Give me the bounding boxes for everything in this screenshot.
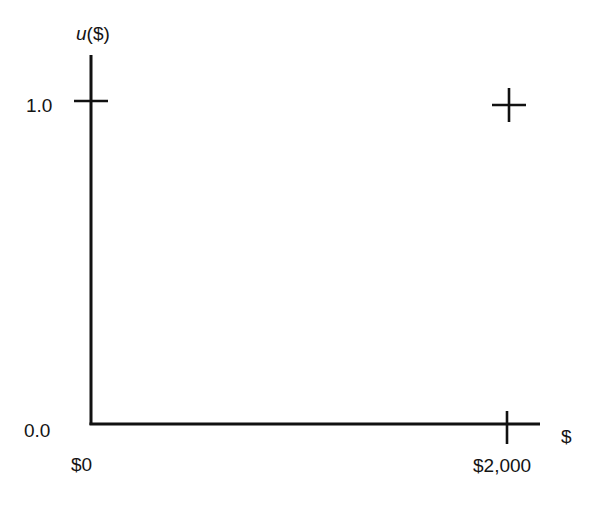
x-tick-label-0: $0 — [71, 454, 92, 476]
utility-chart: u($) 1.0 0.0 $0 $2,000 $ — [0, 0, 614, 518]
y-axis-label: u($) — [76, 23, 110, 45]
x-tick-label-2000: $2,000 — [473, 455, 531, 477]
y-axis-label-unit: ($) — [87, 23, 110, 44]
x-axis-label: $ — [561, 426, 572, 448]
plus-marker-2000-1 — [492, 88, 526, 122]
chart-plot-area — [0, 0, 614, 518]
y-tick-label-1: 1.0 — [26, 95, 52, 117]
y-tick-label-0: 0.0 — [24, 420, 50, 442]
y-axis-label-variable: u — [76, 23, 87, 44]
